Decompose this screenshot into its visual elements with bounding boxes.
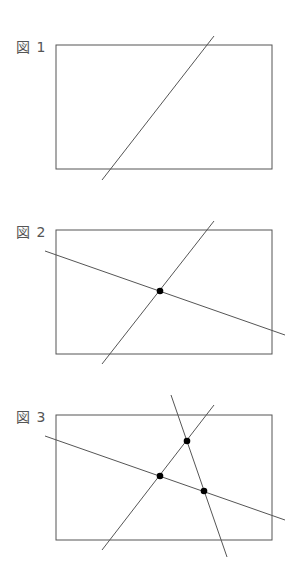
diagram-canvas [0,0,300,569]
line [102,36,214,180]
line [171,395,227,557]
rectangle [56,45,272,169]
figure-2 [45,221,285,364]
intersection-point [157,473,164,480]
intersection-point [201,488,208,495]
rectangle [56,230,272,354]
intersection-point [157,288,164,295]
line [45,436,285,520]
intersection-point [184,438,191,445]
figure-1 [56,36,272,180]
line [45,251,285,335]
figure-3 [45,395,285,557]
